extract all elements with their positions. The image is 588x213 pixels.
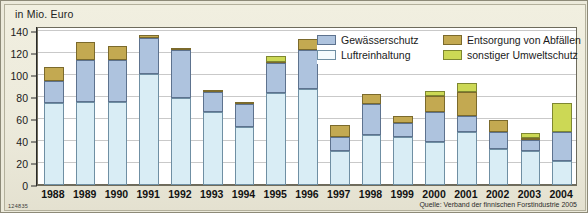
- bar-segment-luft[interactable]: [393, 137, 413, 185]
- bar-segment-sonst[interactable]: [457, 83, 477, 92]
- bar-segment-entsor[interactable]: [44, 67, 64, 81]
- y-tick-label-0: 0: [22, 180, 28, 192]
- bar-segment-entsor[interactable]: [139, 35, 159, 38]
- bar-segment-luft[interactable]: [330, 151, 350, 185]
- bar-segment-entsor[interactable]: [171, 48, 191, 50]
- legend-item-sonst[interactable]: sonstiger Umweltschutz: [443, 49, 578, 61]
- bar-segment-gewae[interactable]: [457, 116, 477, 132]
- x-tick-label-1996: 1996: [295, 188, 318, 200]
- x-tick-label-1991: 1991: [136, 188, 159, 200]
- source-note: Quelle: Verband der finnischen Forstindu…: [419, 201, 577, 208]
- x-tick-label-1988: 1988: [41, 188, 64, 200]
- bar-segment-luft[interactable]: [171, 98, 191, 185]
- legend-swatch-gewae: [317, 35, 336, 45]
- y-tick-label-40: 40: [16, 136, 28, 148]
- y-tick-label-20: 20: [16, 158, 28, 170]
- bar-group[interactable]: [171, 26, 191, 185]
- x-tick-label-2001: 2001: [454, 188, 477, 200]
- legend-label: Luftreinhaltung: [341, 49, 410, 61]
- bar-segment-luft[interactable]: [235, 127, 255, 185]
- bar-segment-entsor[interactable]: [76, 42, 96, 60]
- x-tick-label-1999: 1999: [391, 188, 414, 200]
- bar-segment-gewae[interactable]: [425, 112, 445, 143]
- bar-group[interactable]: [235, 26, 255, 185]
- x-tick-label-1997: 1997: [327, 188, 350, 200]
- legend-swatch-entsor: [443, 35, 462, 45]
- bar-segment-entsor[interactable]: [203, 90, 223, 92]
- bar-segment-entsor[interactable]: [457, 92, 477, 116]
- bar-segment-gewae[interactable]: [552, 132, 572, 161]
- bar-segment-entsor[interactable]: [425, 96, 445, 111]
- bar-segment-sonst[interactable]: [521, 133, 541, 137]
- bar-segment-entsor[interactable]: [235, 102, 255, 104]
- legend-swatch-sonst: [443, 50, 462, 60]
- bar-segment-sonst[interactable]: [425, 91, 445, 96]
- chart-figure: in Mio. Euro 020406080100120140 Gewässer…: [0, 0, 588, 213]
- bar-segment-gewae[interactable]: [298, 50, 318, 88]
- chart-legend: GewässerschutzLuftreinhaltungEntsorgung …: [317, 34, 573, 64]
- bar-segment-luft[interactable]: [362, 135, 382, 185]
- bar-segment-luft[interactable]: [552, 161, 572, 185]
- bar-segment-gewae[interactable]: [44, 81, 64, 103]
- bar-segment-gewae[interactable]: [139, 38, 159, 74]
- bar-segment-luft[interactable]: [425, 142, 445, 185]
- bar-segment-luft[interactable]: [203, 112, 223, 185]
- bar-group[interactable]: [108, 26, 128, 185]
- bar-segment-luft[interactable]: [457, 132, 477, 185]
- bar-segment-luft[interactable]: [298, 89, 318, 185]
- y-tick-label-120: 120: [10, 48, 28, 60]
- bar-segment-luft[interactable]: [489, 149, 509, 185]
- bar-segment-entsor[interactable]: [521, 138, 541, 140]
- bar-segment-entsor[interactable]: [298, 39, 318, 50]
- bar-segment-gewae[interactable]: [76, 60, 96, 102]
- bar-group[interactable]: [298, 26, 318, 185]
- bar-segment-gewae[interactable]: [362, 104, 382, 135]
- bar-segment-gewae[interactable]: [235, 104, 255, 127]
- x-tick-label-1994: 1994: [232, 188, 255, 200]
- x-tick-label-1989: 1989: [73, 188, 96, 200]
- bar-segment-sonst[interactable]: [266, 56, 286, 63]
- bar-group[interactable]: [44, 26, 64, 185]
- x-tick-label-2000: 2000: [422, 188, 445, 200]
- bar-segment-gewae[interactable]: [521, 140, 541, 151]
- bar-group[interactable]: [76, 26, 96, 185]
- bar-segment-gewae[interactable]: [489, 132, 509, 148]
- x-tick-label-1992: 1992: [168, 188, 191, 200]
- y-tick-label-140: 140: [10, 26, 28, 38]
- bar-segment-gewae[interactable]: [108, 60, 128, 102]
- bar-segment-gewae[interactable]: [203, 92, 223, 112]
- legend-item-luft[interactable]: Luftreinhaltung: [317, 49, 410, 61]
- y-tick-label-100: 100: [10, 70, 28, 82]
- x-tick-label-1990: 1990: [105, 188, 128, 200]
- bar-segment-gewae[interactable]: [330, 137, 350, 151]
- legend-item-gewae[interactable]: Gewässerschutz: [317, 34, 419, 46]
- y-tick-label-60: 60: [16, 114, 28, 126]
- legend-swatch-luft: [317, 50, 336, 60]
- bar-segment-luft[interactable]: [44, 103, 64, 185]
- y-tick-label-80: 80: [16, 92, 28, 104]
- x-tick-label-2003: 2003: [518, 188, 541, 200]
- bar-segment-entsor[interactable]: [108, 46, 128, 60]
- bar-segment-gewae[interactable]: [171, 50, 191, 98]
- legend-label: sonstiger Umweltschutz: [467, 49, 578, 61]
- bar-segment-luft[interactable]: [266, 93, 286, 185]
- legend-label: Entsorgung von Abfällen: [467, 34, 581, 46]
- x-tick-label-2002: 2002: [486, 188, 509, 200]
- unit-label: in Mio. Euro: [15, 8, 73, 20]
- bar-segment-gewae[interactable]: [266, 63, 286, 93]
- legend-item-entsor[interactable]: Entsorgung von Abfällen: [443, 34, 581, 46]
- bar-segment-entsor[interactable]: [362, 94, 382, 104]
- bar-segment-entsor[interactable]: [489, 120, 509, 132]
- bar-segment-entsor[interactable]: [393, 116, 413, 123]
- legend-label: Gewässerschutz: [341, 34, 419, 46]
- bar-group[interactable]: [266, 26, 286, 185]
- bar-segment-entsor[interactable]: [330, 125, 350, 137]
- bar-group[interactable]: [139, 26, 159, 185]
- bar-group[interactable]: [203, 26, 223, 185]
- bar-segment-sonst[interactable]: [552, 103, 572, 133]
- bar-segment-luft[interactable]: [139, 74, 159, 185]
- bar-segment-luft[interactable]: [76, 102, 96, 185]
- bar-segment-luft[interactable]: [108, 102, 128, 185]
- bar-segment-gewae[interactable]: [393, 123, 413, 137]
- bar-segment-luft[interactable]: [521, 151, 541, 185]
